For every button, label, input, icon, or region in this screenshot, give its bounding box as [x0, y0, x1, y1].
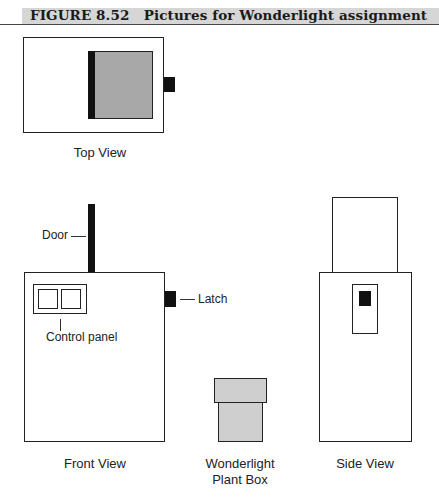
figure-number: FIGURE 8.52 [30, 7, 129, 23]
plant-box-lid [214, 378, 267, 403]
plant-box-body [218, 402, 263, 442]
front-view-label: Front View [50, 456, 140, 471]
front-view-door [88, 204, 95, 272]
top-view-door [88, 51, 95, 119]
control-panel-callout-label: Control panel [46, 330, 117, 344]
latch-callout-line [180, 299, 195, 300]
plant-box-label-line1: Wonderlight [190, 456, 290, 471]
figure-title: Pictures for Wonderlight assignment [144, 7, 427, 23]
front-view-latch [165, 291, 176, 307]
latch-callout-label: Latch [198, 292, 227, 306]
side-view-latch [359, 291, 371, 306]
top-view-latch [164, 77, 175, 92]
top-view-plant-area [88, 51, 153, 119]
plant-box-label-line2: Plant Box [190, 472, 290, 487]
door-callout-line [71, 236, 86, 237]
figure-caption: FIGURE 8.52 Pictures for Wonderlight ass… [30, 7, 427, 23]
top-view-label: Top View [60, 145, 140, 160]
caption-divider [0, 24, 439, 25]
door-callout-label: Door [42, 228, 68, 242]
side-view-label: Side View [320, 456, 410, 471]
control-panel-button-left [38, 289, 58, 309]
side-view-top-section [332, 197, 398, 273]
control-panel-button-right [61, 289, 81, 309]
